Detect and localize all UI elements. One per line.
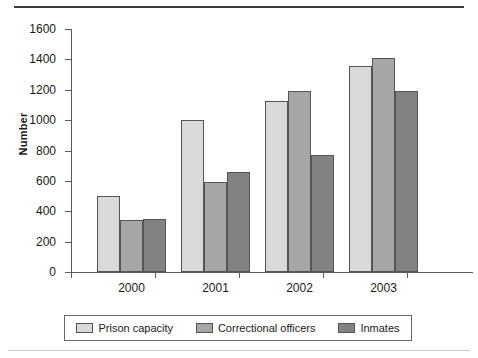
- y-tick-label: 400: [36, 204, 56, 218]
- y-tick: 1400: [65, 59, 71, 60]
- x-axis-group-label: 2000: [118, 281, 145, 295]
- legend-label: Prison capacity: [98, 322, 173, 334]
- x-tick: [323, 272, 324, 278]
- y-tick-label: 200: [36, 235, 56, 249]
- bar: [349, 66, 372, 272]
- chart-legend: Prison capacityCorrectional officersInma…: [64, 315, 412, 341]
- top-divider-rule: [14, 6, 464, 8]
- y-tick-label: 600: [36, 174, 56, 188]
- y-tick: 400: [65, 211, 71, 212]
- y-tick-label: 0: [49, 265, 56, 279]
- y-tick: 1000: [65, 120, 71, 121]
- y-tick-label: 1400: [29, 52, 56, 66]
- bar: [120, 220, 143, 272]
- y-tick: 1200: [65, 90, 71, 91]
- y-tick-label: 1000: [29, 113, 56, 127]
- x-tick: [71, 272, 72, 278]
- x-axis-group-label: 2001: [202, 281, 229, 295]
- bar: [265, 101, 288, 272]
- bottom-divider-rule: [8, 350, 470, 351]
- y-tick-label: 800: [36, 144, 56, 158]
- y-tick: 200: [65, 242, 71, 243]
- legend-swatch-icon: [338, 323, 355, 333]
- y-tick: 800: [65, 151, 71, 152]
- bar: [97, 196, 120, 272]
- legend-label: Correctional officers: [218, 322, 316, 334]
- bar: [395, 91, 418, 272]
- bar: [227, 172, 250, 272]
- y-tick-label: 1200: [29, 83, 56, 97]
- x-axis-group-label: 2003: [370, 281, 397, 295]
- legend-item[interactable]: Prison capacity: [76, 322, 173, 334]
- y-axis-line: [71, 29, 72, 273]
- bar: [311, 155, 334, 272]
- x-tick: [407, 272, 408, 278]
- x-axis-line: [71, 272, 473, 273]
- y-axis-title: Number: [17, 89, 29, 179]
- bar: [288, 91, 311, 272]
- legend-label: Inmates: [360, 322, 399, 334]
- x-axis-group-label: 2002: [286, 281, 313, 295]
- plot-area: 02004006008001000120014001600 2000200120…: [71, 29, 411, 272]
- bar-chart-figure: Number 02004006008001000120014001600 200…: [0, 0, 478, 358]
- x-tick: [155, 272, 156, 278]
- legend-item[interactable]: Inmates: [338, 322, 399, 334]
- bar: [143, 219, 166, 272]
- bar: [181, 120, 204, 272]
- y-tick: 600: [65, 181, 71, 182]
- legend-item[interactable]: Correctional officers: [196, 322, 316, 334]
- x-tick: [239, 272, 240, 278]
- bar: [372, 58, 395, 272]
- y-tick: 1600: [65, 29, 71, 30]
- legend-swatch-icon: [76, 323, 93, 333]
- y-tick-label: 1600: [29, 22, 56, 36]
- bar: [204, 182, 227, 272]
- legend-swatch-icon: [196, 323, 213, 333]
